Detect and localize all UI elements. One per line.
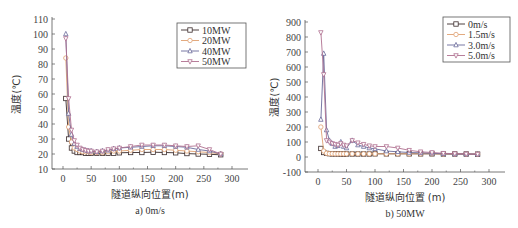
y-tick-label: 400 [286, 92, 301, 103]
circle-marker [356, 152, 360, 156]
legend-label: 10MW [202, 25, 231, 36]
series-line [321, 54, 478, 155]
legend-label: 0m/s [468, 19, 488, 30]
square-marker [454, 22, 458, 26]
chart-caption: b) 50MW [385, 208, 425, 220]
x-tick-label: 250 [196, 173, 211, 184]
triangle-down-marker [322, 73, 326, 77]
y-axis-title: 温度(℃) [268, 77, 280, 116]
y-tick-label: 60 [38, 89, 48, 100]
y-tick-label: 900 [286, 17, 301, 28]
circle-marker [361, 152, 365, 156]
x-tick-label: 150 [140, 173, 155, 184]
x-tick-label: 300 [482, 176, 497, 187]
x-tick-label: 100 [112, 173, 127, 184]
legend-label: 40MW [202, 46, 231, 57]
x-tick-label: 0 [316, 176, 321, 187]
y-tick-label: 800 [286, 32, 301, 43]
series-20MW [64, 56, 223, 156]
triangle-down-marker [64, 37, 68, 41]
y-tick-label: 600 [286, 62, 301, 73]
series-3.0m/s [319, 51, 480, 156]
circle-marker [367, 152, 371, 156]
y-tick-label: 50 [38, 104, 48, 115]
y-tick-label: 0 [296, 152, 301, 163]
y-tick-label: 100 [286, 137, 301, 148]
y-tick-label: 10 [38, 164, 48, 175]
x-tick-label: 50 [86, 173, 96, 184]
figure-canvas: 1020304050607080901001100501001502002503… [0, 0, 518, 228]
legend-label: 1.5m/s [468, 29, 495, 40]
triangle-up-marker [319, 117, 323, 121]
circle-marker [454, 32, 458, 36]
series-line [66, 58, 221, 154]
square-marker [188, 28, 192, 32]
triangle-down-marker [396, 146, 400, 150]
x-tick-label: 200 [168, 173, 183, 184]
y-tick-label: 100 [33, 29, 48, 40]
circle-marker [319, 125, 323, 129]
circle-marker [350, 152, 354, 156]
y-tick-label: 500 [286, 77, 301, 88]
y-tick-label: 40 [38, 119, 48, 130]
legend: 0m/s1.5m/s3.0m/s5.0m/s [443, 17, 510, 62]
y-tick-label: -100 [283, 167, 301, 178]
chart-b: -100010020030040050060070080090005010015… [268, 17, 510, 221]
y-tick-label: 80 [38, 59, 48, 70]
y-tick-label: 200 [286, 122, 301, 133]
x-tick-label: 0 [61, 173, 66, 184]
chart-caption: a) 0m/s [135, 205, 165, 217]
legend-label: 5.0m/s [468, 50, 495, 61]
x-tick-label: 150 [396, 176, 411, 187]
x-tick-label: 250 [453, 176, 468, 187]
y-tick-label: 70 [38, 74, 48, 85]
x-axis-title: 隧道纵向位置(m) [111, 188, 189, 200]
x-tick-label: 200 [425, 176, 440, 187]
y-tick-label: 30 [38, 134, 48, 145]
circle-marker [344, 152, 348, 156]
legend-label: 20MW [202, 35, 231, 46]
chart-a: 1020304050607080901001100501001502002503… [10, 14, 248, 218]
x-tick-label: 300 [225, 173, 240, 184]
legend-label: 3.0m/s [468, 40, 495, 51]
circle-marker [64, 56, 68, 60]
y-tick-label: 700 [286, 47, 301, 58]
y-tick-label: 110 [33, 14, 48, 25]
y-tick-label: 90 [38, 44, 48, 55]
circle-marker [188, 38, 192, 42]
triangle-down-marker [384, 145, 388, 149]
x-tick-label: 50 [342, 176, 352, 187]
x-axis-title: 隧道纵向位置 (m) [365, 191, 446, 203]
legend: 10MW20MW40MW50MW [177, 23, 246, 68]
circle-marker [373, 152, 377, 156]
legend-label: 50MW [202, 56, 231, 67]
y-tick-label: 300 [286, 107, 301, 118]
x-tick-label: 100 [368, 176, 383, 187]
y-axis-title: 温度(℃) [10, 74, 22, 113]
triangle-down-marker [196, 144, 200, 148]
triangle-down-marker [319, 31, 323, 35]
y-tick-label: 20 [38, 149, 48, 160]
triangle-up-marker [64, 31, 68, 35]
